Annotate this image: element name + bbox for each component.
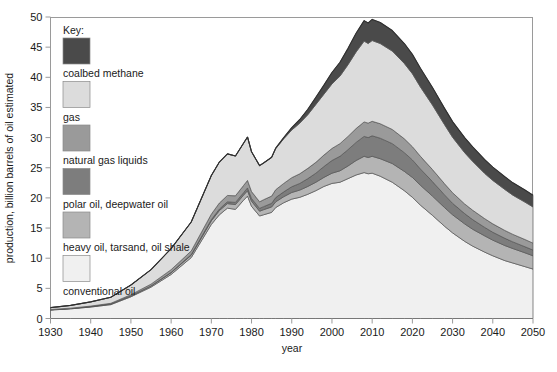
legend-swatch xyxy=(63,169,90,195)
x-tick-label: 2020 xyxy=(400,326,424,338)
y-tick-label: 45 xyxy=(30,41,42,53)
y-tick-label: 20 xyxy=(30,192,42,204)
legend-label: natural gas liquids xyxy=(63,154,148,166)
y-tick-label: 40 xyxy=(30,71,42,83)
legend-swatch xyxy=(63,82,90,108)
y-tick-label: 10 xyxy=(30,252,42,264)
legend-label: heavy oil, tarsand, oil shale xyxy=(63,241,190,253)
y-tick-label: 5 xyxy=(36,282,42,294)
x-tick-label: 2010 xyxy=(360,326,384,338)
legend-label: gas xyxy=(63,111,80,123)
legend-label: conventional oil xyxy=(63,285,135,297)
x-tick-label: 2040 xyxy=(481,326,505,338)
stacked-area-chart: 05101520253035404550 1930194019501960197… xyxy=(0,0,557,372)
y-tick-label: 25 xyxy=(30,162,42,174)
y-axis-title: production, billion barrels of oil estim… xyxy=(3,73,15,263)
legend-swatch xyxy=(63,212,90,238)
x-tick-label: 1980 xyxy=(239,326,263,338)
legend-swatch xyxy=(63,38,90,64)
y-tick-label: 15 xyxy=(30,222,42,234)
legend-label: coalbed methane xyxy=(63,67,144,79)
y-tick-label: 30 xyxy=(30,132,42,144)
y-tick-label: 35 xyxy=(30,101,42,113)
y-tick-label: 50 xyxy=(30,11,42,23)
legend-label: polar oil, deepwater oil xyxy=(63,198,168,210)
figure-container: 05101520253035404550 1930194019501960197… xyxy=(0,0,557,372)
x-tick-label: 1950 xyxy=(119,326,143,338)
x-tick-label: 1930 xyxy=(38,326,62,338)
legend-swatch xyxy=(63,256,90,282)
x-tick-label: 1940 xyxy=(78,326,102,338)
legend-title: Key: xyxy=(63,24,84,36)
x-tick-label: 1970 xyxy=(199,326,223,338)
legend-swatch xyxy=(63,125,90,151)
x-axis-title: year xyxy=(282,342,303,354)
x-tick-label: 1990 xyxy=(280,326,304,338)
x-tick-label: 2030 xyxy=(440,326,464,338)
y-tick-label: 0 xyxy=(36,313,42,325)
x-tick-label: 2000 xyxy=(320,326,344,338)
x-tick-label: 2050 xyxy=(521,326,545,338)
x-tick-label: 1960 xyxy=(159,326,183,338)
